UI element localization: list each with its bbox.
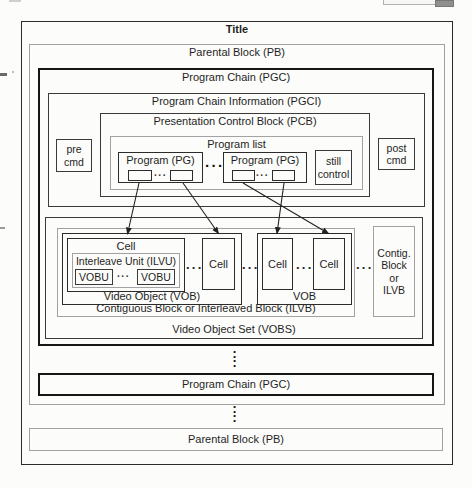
- cell-3-label: Cell: [268, 258, 287, 271]
- pre-cmd-box: pre cmd: [56, 139, 92, 172]
- page-margin-mark: [9, 0, 21, 2]
- pcb-label: Presentation Control Block (PCB): [153, 115, 316, 128]
- pre-cmd-label: pre cmd: [64, 143, 84, 167]
- title-label: Title: [226, 23, 248, 36]
- ellipsis-cell1-cell2: ···: [186, 260, 204, 275]
- program-pg-left-label: Program (PG): [126, 154, 194, 167]
- vertical-ellipsis-pb: ····: [232, 405, 238, 423]
- vobu-2-label: VOBU: [141, 271, 171, 283]
- cell-box-2: Cell: [202, 238, 235, 290]
- page-margin-mark: [0, 73, 7, 76]
- ellipsis-vobu: ···: [117, 271, 130, 282]
- ilvu-label: Interleave Unit (ILVU): [76, 255, 176, 267]
- ellipsis-vob1-vob2: ···: [242, 260, 260, 275]
- cell-box-3: Cell: [262, 238, 293, 290]
- vob-left-label: Video Object (VOB): [104, 290, 200, 303]
- scrollbar-thumb-fragment[interactable]: [435, 0, 454, 7]
- vertical-ellipsis-pgc: ····: [232, 350, 238, 368]
- cell-pointer-rect-3: [232, 170, 255, 181]
- post-cmd-label: post cmd: [387, 142, 407, 166]
- cropped-ui-fragment: [383, 0, 453, 5]
- vobu-box-1: VOBU: [75, 269, 113, 285]
- ellipsis-between-pg: ···: [205, 157, 225, 174]
- vob-right-label: VOB: [293, 290, 316, 303]
- program-pg-right-label: Program (PG): [231, 154, 299, 167]
- contig-block: Contig. Block or ILVB: [373, 226, 415, 317]
- contig-block-label: Contig. Block or ILVB: [377, 247, 410, 295]
- vobs-label: Video Object Set (VOBS): [172, 323, 295, 336]
- ellipsis-pg1-rects: ···: [154, 170, 167, 181]
- cell-pointer-rect-4: [272, 170, 295, 181]
- cell-box-4: Cell: [313, 238, 345, 290]
- vobu-box-2: VOBU: [137, 269, 175, 285]
- parental-block-bottom-label: Parental Block (PB): [188, 433, 284, 446]
- ellipsis-ilvb-contig: ···: [356, 260, 374, 275]
- vobu-1-label: VOBU: [79, 271, 109, 283]
- program-chain-block-bottom: Program Chain (PGC): [38, 373, 434, 396]
- cell-pointer-rect-1: [128, 170, 152, 181]
- cell-2-label: Cell: [209, 258, 228, 271]
- parental-block-top-label: Parental Block (PB): [189, 46, 285, 59]
- program-chain-top-label: Program Chain (PGC): [182, 71, 290, 84]
- still-control-box: still control: [315, 150, 352, 185]
- page-margin-dot: [12, 71, 14, 73]
- parental-block-bottom: Parental Block (PB): [29, 428, 443, 451]
- program-list-label: Program list: [207, 138, 266, 151]
- cell-pointer-rect-2: [170, 170, 193, 181]
- cell-4-label: Cell: [320, 258, 339, 271]
- program-chain-bottom-label: Program Chain (PGC): [182, 378, 290, 391]
- post-cmd-box: post cmd: [378, 138, 415, 170]
- pgci-label: Program Chain Information (PGCI): [152, 95, 321, 108]
- cell-1-label: Cell: [117, 240, 136, 253]
- ellipsis-pg2-rects: ···: [256, 170, 269, 181]
- ellipsis-cell3-cell4: ···: [296, 260, 314, 275]
- still-control-label: still control: [318, 155, 350, 179]
- page-margin-mark: [0, 227, 5, 229]
